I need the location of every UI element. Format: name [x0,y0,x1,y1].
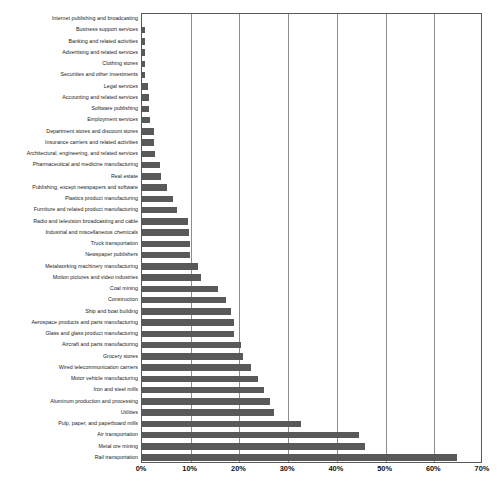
category-label: Air transportation [0,429,138,440]
bar [141,49,145,56]
bar-row [141,418,482,429]
bar [141,331,234,338]
bar [141,173,161,180]
bar [141,162,160,169]
bar [141,61,145,68]
bar [141,151,155,158]
bar [141,263,198,270]
bar-row [141,103,482,114]
bar [141,117,150,124]
bar-row [141,47,482,58]
bar [141,27,145,34]
category-label: Metalworking machinery manufacturing [0,261,138,272]
bar-chart: Internet publishing and broadcastingBusi… [0,0,499,481]
x-tick-label: 0% [136,464,147,473]
bar [141,432,359,439]
bars-layer [141,13,482,463]
bar [141,83,148,90]
bar-row [141,317,482,328]
bar [141,342,241,349]
category-label: Truck transportation [0,238,138,249]
category-label: Wired telecommunication carriers [0,362,138,373]
bar-row [141,396,482,407]
category-label: Software publishing [0,103,138,114]
category-label: Aluminum production and processing [0,396,138,407]
category-label: Advertising and related services [0,47,138,58]
category-label: Plastics product manufacturing [0,193,138,204]
bar-row [141,227,482,238]
bar-row [141,58,482,69]
category-label: Utilities [0,407,138,418]
category-label: Internet publishing and broadcasting [0,13,138,24]
bar [141,218,188,225]
bar [141,364,251,371]
bar [141,387,264,394]
bar [141,376,258,383]
bar-row [141,384,482,395]
bar-row [141,216,482,227]
category-label: Motion pictures and video industries [0,272,138,283]
category-label: Grocery stores [0,351,138,362]
bar [141,38,145,45]
bar [141,398,270,405]
bar-row [141,92,482,103]
bar-row [141,429,482,440]
x-tick-label: 50% [377,464,392,473]
bar-row [141,24,482,35]
bar-row [141,126,482,137]
bar [141,274,201,281]
x-tick-label: 20% [231,464,246,473]
category-label: Insurance carriers and related activitie… [0,137,138,148]
category-label: Newspaper publishers [0,249,138,260]
bar [141,72,145,79]
category-label: Employment services [0,114,138,125]
category-label: Glass and glass product manufacturing [0,328,138,339]
x-tick-label: 40% [328,464,343,473]
bar [141,353,243,360]
bar-row [141,339,482,350]
bar-row [141,452,482,463]
category-label: Aircraft and parts manufacturing [0,339,138,350]
bar [141,454,457,461]
x-axis-tick-labels: 0%10%20%30%40%50%60%70% [141,464,482,478]
bar-row [141,36,482,47]
bar-row [141,249,482,260]
category-label: Furniture and related product manufactur… [0,204,138,215]
bar-row [141,238,482,249]
category-label: Metal ore mining [0,441,138,452]
x-tick-label: 60% [426,464,441,473]
bar-row [141,204,482,215]
category-label: Accounting and related services [0,92,138,103]
category-label: Securities and other investments [0,69,138,80]
category-label: Architectural, engineering, and related … [0,148,138,159]
category-label: Banking and related activities [0,36,138,47]
bar-row [141,182,482,193]
bar [141,184,167,191]
bar-row [141,294,482,305]
bar [141,139,154,146]
bar-row [141,306,482,317]
bar-row [141,69,482,80]
category-label: Construction [0,294,138,305]
bar [141,421,301,428]
bar-row [141,441,482,452]
category-label: Industrial and miscellaneous chemicals [0,227,138,238]
bar [141,286,218,293]
bar [141,229,189,236]
bar-row [141,137,482,148]
category-label: Business support services [0,24,138,35]
bar [141,128,154,135]
bar [141,241,190,248]
category-label: Coal mining [0,283,138,294]
bar [141,319,234,326]
category-label: Publishing, except newspapers and softwa… [0,182,138,193]
x-tick-label: 70% [475,464,490,473]
category-labels: Internet publishing and broadcastingBusi… [0,13,138,463]
category-label: Pharmaceutical and medicine manufacturin… [0,159,138,170]
bar-row [141,351,482,362]
category-label: Rail transportation [0,452,138,463]
bar-row [141,81,482,92]
category-label: Motor vehicle manufacturing [0,373,138,384]
bar-row [141,159,482,170]
category-label: Real estate [0,171,138,182]
